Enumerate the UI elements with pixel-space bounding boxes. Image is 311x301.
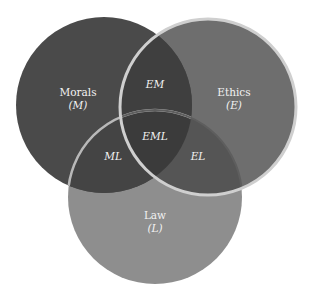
label-law-symbol: (L) [147,222,162,234]
label-ethics: Ethics [217,86,250,98]
label-morals-symbol: (M) [69,99,88,111]
venn-diagram: Morals (M) Ethics (E) Law (L) EM EML ML … [0,0,311,301]
label-morals: Morals [59,86,96,98]
label-law: Law [144,209,166,221]
label-em: EM [145,78,165,90]
label-eml: EML [141,130,167,142]
label-ethics-symbol: (E) [226,99,242,111]
label-ml: ML [103,150,122,162]
venn-svg: Morals (M) Ethics (E) Law (L) EM EML ML … [0,0,311,301]
label-el: EL [190,150,206,162]
